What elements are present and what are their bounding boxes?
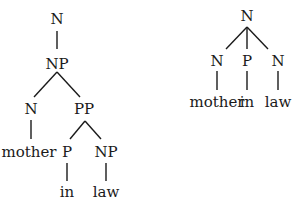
right-mother: mother	[190, 93, 246, 111]
edge	[226, 27, 247, 49]
edge	[57, 72, 80, 97]
syntax-trees: N NP N PP mother P NP in law N N P N mot…	[0, 0, 296, 204]
right-n1: N	[210, 52, 223, 70]
left-np: NP	[45, 55, 68, 73]
right-in: in	[240, 93, 255, 111]
left-p: P	[62, 143, 72, 161]
left-root-n: N	[50, 10, 63, 28]
left-in: in	[60, 183, 75, 201]
edge	[247, 27, 268, 49]
left-mother: mother	[2, 143, 58, 161]
edge	[70, 121, 85, 139]
left-tree: N NP N PP mother P NP in law	[2, 10, 120, 201]
left-law: law	[93, 183, 120, 201]
right-law: law	[265, 93, 292, 111]
edge	[85, 121, 101, 139]
right-p: P	[242, 52, 252, 70]
left-np2: NP	[94, 143, 117, 161]
right-n2: N	[271, 52, 284, 70]
right-root-n: N	[240, 7, 253, 25]
left-pp: PP	[74, 100, 94, 118]
left-n: N	[24, 100, 37, 118]
edge	[34, 72, 57, 97]
right-tree: N N P N mother in law	[190, 7, 292, 111]
